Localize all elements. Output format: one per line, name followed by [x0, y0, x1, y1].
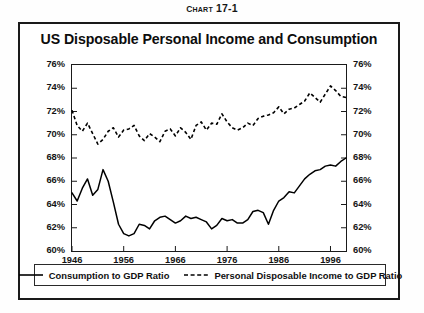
chart-legend: Consumption to GDP Ratio Personal Dispos… — [34, 264, 386, 286]
y-axis-right-tick-label: 70% — [353, 129, 383, 139]
chart-number-value: 17-1 — [213, 2, 238, 14]
y-axis-left-tick-label: 68% — [35, 152, 65, 162]
chart-title: US Disposable Personal Income and Consum… — [20, 31, 398, 47]
chart-number-caption: CHART 17-1 — [0, 2, 424, 14]
plot-border — [72, 65, 347, 252]
chart-number-prefix: CHART — [186, 4, 213, 14]
y-axis-left-tick-label: 62% — [35, 222, 65, 232]
y-axis-left-tick-label: 66% — [35, 175, 65, 185]
legend-item-personal-disposable-income: Personal Disposable Income to GDP Ratio — [183, 270, 402, 281]
legend-swatch-solid-icon — [18, 271, 44, 279]
legend-label-consumption: Consumption to GDP Ratio — [49, 270, 170, 281]
y-axis-left-tick-label: 70% — [35, 129, 65, 139]
y-axis-right-tick-label: 60% — [353, 245, 383, 255]
y-axis-right-tick-label: 76% — [353, 59, 383, 69]
chart-page: CHART 17-1 US Disposable Personal Income… — [0, 0, 424, 313]
chart-frame: US Disposable Personal Income and Consum… — [18, 22, 400, 300]
y-axis-right-tick-label: 74% — [353, 82, 383, 92]
y-axis-left-tick-label: 72% — [35, 106, 65, 116]
legend-swatch-dashed-icon — [183, 271, 209, 279]
legend-label-personal-disposable-income: Personal Disposable Income to GDP Ratio — [214, 270, 402, 281]
y-axis-left-tick-label: 74% — [35, 82, 65, 92]
y-axis-left-tick-label: 64% — [35, 199, 65, 209]
y-axis-right-tick-label: 68% — [353, 152, 383, 162]
plot-area: 60%62%64%66%68%70%72%74%76% 60%62%64%66%… — [71, 64, 347, 252]
y-axis-right-tick-label: 72% — [353, 106, 383, 116]
legend-item-consumption: Consumption to GDP Ratio — [18, 270, 170, 281]
y-axis-right-tick-label: 62% — [353, 222, 383, 232]
y-axis-right-tick-label: 66% — [353, 175, 383, 185]
plot-svg — [71, 64, 347, 252]
y-axis-right-tick-label: 64% — [353, 199, 383, 209]
y-axis-left-tick-label: 60% — [35, 245, 65, 255]
y-axis-left-tick-label: 76% — [35, 59, 65, 69]
